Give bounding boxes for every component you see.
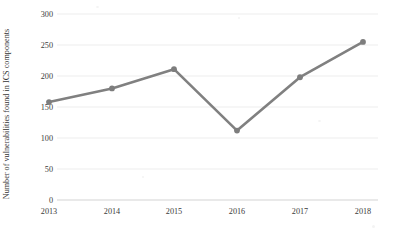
plot-svg <box>0 0 397 234</box>
data-point-2018 <box>360 39 366 45</box>
series-line <box>49 42 363 131</box>
paper-speck <box>238 17 240 19</box>
plot-area: 300 250 200 150 100 50 0 2013 2014 2015 … <box>0 0 397 234</box>
data-point-2013 <box>46 99 52 105</box>
paper-speck <box>96 6 99 8</box>
line-chart: Number of vulnerabilities found in ICS c… <box>0 0 397 234</box>
data-point-2015 <box>171 66 177 72</box>
paper-speck <box>318 120 321 122</box>
gridlines <box>57 14 378 200</box>
data-point-2014 <box>109 86 115 92</box>
data-point-2016 <box>234 128 240 134</box>
data-point-2017 <box>297 74 303 80</box>
paper-speck <box>372 225 375 228</box>
paper-speck <box>142 176 144 178</box>
